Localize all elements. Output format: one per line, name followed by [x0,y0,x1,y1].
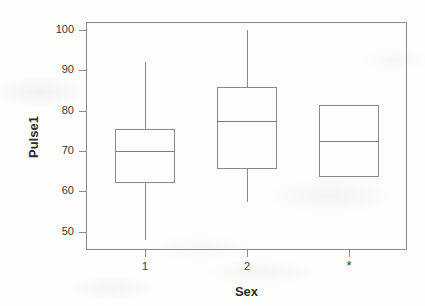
median-line [115,151,175,152]
boxplot-chart: 5060708090100 12* Pulse1 Sex [0,0,425,306]
y-tick-mark [79,232,86,233]
y-tick-label: 100 [34,24,74,35]
y-axis-title: Pulse1 [26,116,41,158]
x-tick-label: 2 [227,261,267,272]
box-rect [115,129,175,183]
x-tick-mark [247,250,248,257]
median-line [319,141,379,142]
x-tick-mark [349,250,350,257]
median-line [217,121,277,122]
y-tick-mark [79,30,86,31]
x-tick-label: 1 [125,261,165,272]
y-tick-label: 80 [34,105,74,116]
x-tick-mark [145,250,146,257]
y-tick-mark [79,111,86,112]
box-rect [217,87,277,169]
whisker-lower [145,183,146,240]
whisker-upper [145,62,146,129]
y-tick-mark [79,151,86,152]
x-tick-label-missing: * [329,263,369,269]
y-tick-mark [79,191,86,192]
y-tick-label: 90 [34,64,74,75]
x-axis-title: Sex [46,284,425,299]
y-tick-mark [79,70,86,71]
whisker-upper [247,30,248,87]
y-tick-label: 50 [34,226,74,237]
y-tick-label: 60 [34,185,74,196]
whisker-lower [247,169,248,202]
